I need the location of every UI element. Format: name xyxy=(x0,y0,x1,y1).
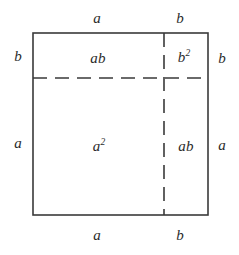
region-label-bottom-left: a2 xyxy=(93,139,106,154)
edge-label-left-b: b xyxy=(14,49,22,64)
region-label-top-right: b2 xyxy=(178,50,191,65)
region-label-top-left: ab xyxy=(90,51,105,66)
region-base-bottom-right: ab xyxy=(178,138,193,154)
edge-label-left-a: a xyxy=(14,136,22,151)
edge-label-right-b: b xyxy=(218,51,226,66)
geometry-figure: a b a b b a b a ab b2 a2 ab xyxy=(0,0,239,255)
region-label-bottom-right: ab xyxy=(178,139,193,154)
edge-label-right-a: a xyxy=(218,138,226,153)
region-base-top-left: ab xyxy=(90,50,105,66)
edge-label-top-a: a xyxy=(93,11,101,26)
region-base-top-right: b xyxy=(178,49,186,65)
edge-label-bottom-b: b xyxy=(176,228,184,243)
edge-label-top-b: b xyxy=(176,11,184,26)
edge-label-bottom-a: a xyxy=(93,228,101,243)
figure-canvas xyxy=(0,0,239,255)
region-exponent-top-right: 2 xyxy=(185,48,190,58)
region-exponent-bottom-left: 2 xyxy=(100,137,105,147)
region-base-bottom-left: a xyxy=(93,138,101,154)
